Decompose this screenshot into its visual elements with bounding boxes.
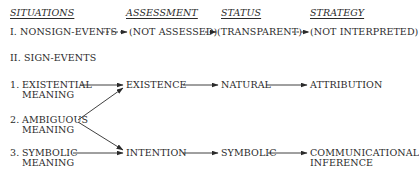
- arrow-ambiguous-to-intention: [78, 122, 123, 150]
- arrow-ambiguous-to-existence: [78, 88, 123, 120]
